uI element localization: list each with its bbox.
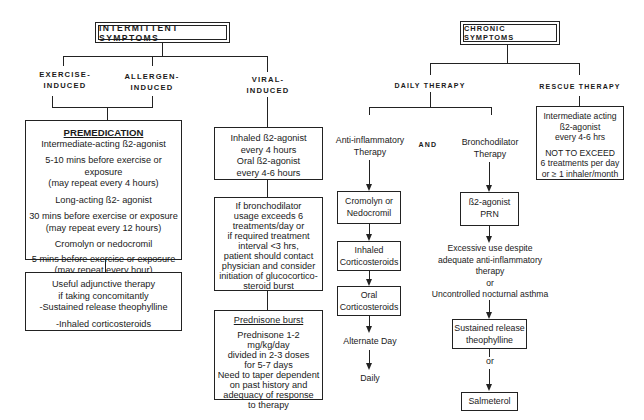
sustained-release-theophylline-box: Sustained releasetheophylline (452, 319, 527, 349)
connector (430, 63, 431, 75)
bronchodilator-therapy-label: BronchodilatorTherapy (445, 137, 535, 160)
anti-inflammatory-therapy-label: Anti-inflammatoryTherapy (325, 135, 415, 158)
connector (430, 92, 431, 107)
arrow-down-icon (366, 363, 372, 370)
arrow-down-icon (486, 185, 492, 192)
connector (489, 369, 490, 385)
bronchodilator-overuse-box: If bronchodilator usage exceeds 6 treatm… (214, 197, 323, 291)
rescue-therapy-label: RESCUE THERAPY (535, 82, 625, 93)
connector (267, 56, 268, 72)
exercise-induced-label: EXERCISE-INDUCED (25, 70, 105, 91)
connector (162, 43, 163, 57)
connector (491, 107, 492, 115)
salmeterol-box: Salmeterol (461, 392, 518, 411)
connector (107, 107, 108, 120)
arrow-down-icon (366, 326, 372, 333)
chronic-symptoms-title: CHRONIC SYMPTOMS (463, 24, 557, 42)
premedication-heading: PREMEDICATION (26, 127, 181, 139)
b2-agonist-prn-box: ß2-agonistPRN (460, 192, 519, 226)
connector (579, 63, 580, 75)
and-label: AND (413, 140, 443, 151)
allergen-induced-label: ALLERGEN-INDUCED (112, 72, 192, 93)
daily-therapy-label: DAILY THERAPY (385, 81, 475, 92)
connector (369, 107, 370, 115)
alternate-day-label: Alternate Day (325, 336, 415, 348)
premedication-box: PREMEDICATION Intermediate-acting ß2-ago… (25, 120, 182, 260)
connector (267, 97, 268, 127)
connector (63, 56, 268, 57)
connector (489, 162, 490, 186)
arrow-down-icon (486, 236, 492, 243)
viral-bronchodilator-box: Inhaled ß2-agonist every 4 hours Oral ß2… (214, 127, 323, 180)
arrow-down-icon (366, 234, 372, 241)
prednisone-burst-box: Prednisone burst Prednisone 1-2 mg/kg/da… (214, 310, 323, 400)
arrow-down-icon (366, 184, 372, 191)
connector (369, 350, 370, 364)
connector (507, 45, 508, 64)
inhaled-corticosteroids-box: InhaledCorticosteroids (337, 241, 401, 271)
arrow-down-icon (366, 279, 372, 286)
connector (369, 160, 370, 185)
daily-label: Daily (325, 373, 415, 385)
oral-corticosteroids-box: OralCorticosteroids (337, 286, 401, 316)
adjunctive-therapy-box: Useful adjunctive therapy if taking conc… (25, 272, 182, 331)
connector (63, 56, 64, 66)
connector (152, 56, 153, 66)
prednisone-burst-heading: Prednisone burst (215, 315, 322, 325)
connector (267, 291, 268, 311)
connector (430, 63, 580, 64)
connector (52, 107, 153, 108)
intermittent-symptoms-title: INTERMITTENT SYMPTOMS (98, 25, 227, 40)
excessive-use-note: Excessive use despite adequate anti-infl… (420, 243, 560, 301)
connector (369, 107, 492, 108)
arrow-down-icon (486, 384, 492, 391)
viral-induced-label: VIRAL-INDUCED (228, 75, 308, 96)
rescue-therapy-box: Intermediate acting ß2-agonist every 4-6… (536, 106, 624, 180)
arrow-down-icon (486, 312, 492, 319)
cromolyn-nedocromil-box: Cromolyn orNedocromil (337, 191, 401, 224)
or-label: or (479, 356, 501, 368)
connector (267, 180, 268, 197)
intermittent-symptoms-title-box: INTERMITTENT SYMPTOMS (95, 22, 230, 43)
chronic-symptoms-title-box: CHRONIC SYMPTOMS (460, 21, 560, 45)
